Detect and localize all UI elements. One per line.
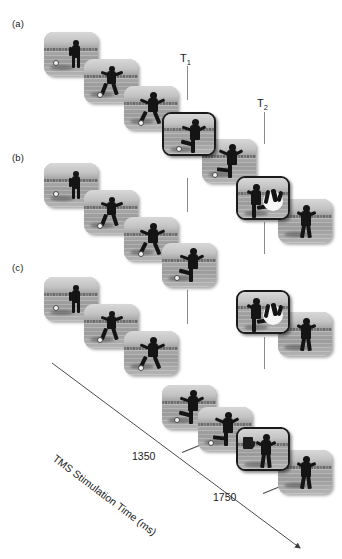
soccer-ball	[97, 337, 103, 343]
figure-canvas: (a) (b) (c) T1 T2 13501750 TMS Stimulati…	[0, 0, 342, 559]
time-marker-segment-t1	[187, 290, 188, 324]
player-ground-shadow	[50, 65, 74, 70]
player-torso	[148, 229, 158, 243]
time-marker-segment-t2	[264, 112, 265, 144]
time-marker-label-t1: T1	[180, 52, 191, 67]
soccer-ball	[174, 275, 180, 281]
player-ground-shadow	[244, 211, 268, 216]
player-leg-left	[72, 57, 75, 68]
player-leg-plant	[252, 318, 256, 332]
soccer-ball	[174, 417, 180, 423]
player-leg-right	[77, 302, 80, 313]
player-arm	[69, 178, 72, 187]
time-marker-segment-t1	[187, 178, 188, 212]
player-leg-left	[72, 302, 75, 313]
soccer-ball	[138, 251, 144, 257]
soccer-ball	[208, 440, 214, 446]
video-frame-a-4	[162, 112, 216, 156]
soccer-ball	[138, 365, 144, 371]
axis-tick-label-1750: 1750	[213, 491, 236, 503]
panel-label-c: (c)	[12, 262, 24, 273]
player-ground-shadow	[50, 196, 74, 201]
video-frame-c-3	[124, 331, 178, 375]
player-ground-shadow	[50, 310, 74, 315]
video-frame-b-4	[162, 243, 216, 287]
soccer-ball	[212, 172, 218, 178]
player-leg-right	[77, 188, 80, 199]
t2-letter: T	[257, 97, 264, 109]
soccer-ball	[138, 120, 144, 126]
player-leg-right	[77, 57, 80, 68]
soccer-ball	[97, 92, 103, 98]
soccer-ball	[53, 60, 59, 66]
player-torso	[148, 343, 158, 357]
time-marker-segment-t1	[187, 66, 188, 100]
player-leg-left	[72, 188, 75, 199]
player-ground-shadow	[244, 325, 268, 330]
soccer-ball	[53, 305, 59, 311]
soccer-ball	[97, 223, 103, 229]
soccer-ball	[53, 191, 59, 197]
player-arm	[69, 47, 72, 56]
time-marker-segment-t2	[264, 337, 265, 369]
soccer-ball	[176, 146, 182, 152]
t2-subscript: 2	[264, 103, 268, 112]
video-frame-b-5	[236, 176, 290, 220]
panel-label-a: (a)	[12, 18, 24, 29]
player-torso	[148, 98, 158, 112]
t1-letter: T	[180, 52, 187, 64]
time-marker-segment-t2	[264, 222, 265, 254]
player-leg-plant	[252, 204, 256, 218]
video-frame-c-8	[236, 427, 290, 471]
panel-label-b: (b)	[12, 152, 24, 163]
player-arm	[69, 292, 72, 301]
time-marker-label-t2: T2	[257, 97, 268, 112]
axis-tick-label-1350: 1350	[132, 450, 155, 462]
video-frame-c-6	[236, 290, 290, 334]
